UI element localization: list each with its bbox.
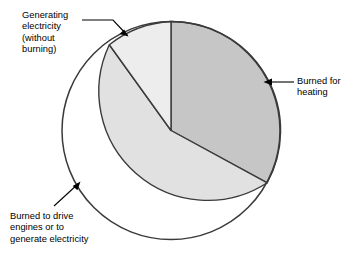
pie-label-burned-for-heating: Burned for heating xyxy=(297,76,341,99)
pie-label-generating-electricity: Generating electricity (without burning) xyxy=(22,10,68,56)
pie-label-burned-to-drive-engines: Burned to drive engines or to generate e… xyxy=(10,211,88,245)
